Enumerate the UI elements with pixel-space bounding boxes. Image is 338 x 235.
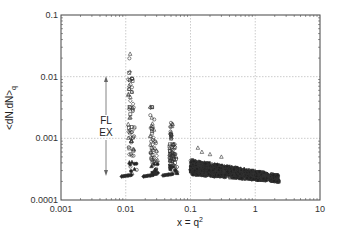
y-tick-label: 0.0001	[30, 195, 58, 205]
x-tick-label: 1	[253, 204, 258, 214]
x-tick-label: 0.001	[50, 204, 73, 214]
fl-label: FL	[100, 115, 112, 126]
x-tick-label: 0.01	[117, 204, 135, 214]
x-tick-label: 10	[315, 204, 325, 214]
x-tick-label: 0.1	[184, 204, 197, 214]
fl-ex-annotation: FL EX	[99, 76, 113, 176]
x-axis-label: x = q2	[177, 216, 203, 228]
ex-label: EX	[99, 127, 113, 138]
scatter-chart: 0.0010.010.11100.00010.0010.010.1 FL EX …	[0, 0, 338, 235]
y-tick-label: 0.001	[35, 133, 58, 143]
tick-labels: 0.0010.010.11100.00010.0010.010.1	[30, 10, 325, 214]
data-points	[120, 52, 281, 183]
y-tick-label: 0.01	[40, 72, 58, 82]
y-tick-label: 0.1	[45, 10, 58, 20]
y-axis-label: <dN.dN>q	[4, 86, 18, 130]
